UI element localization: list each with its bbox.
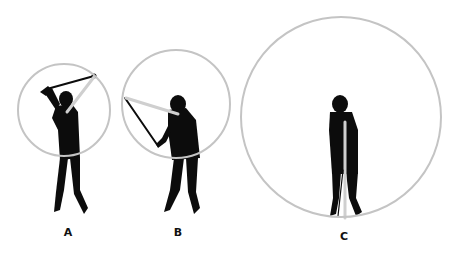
panel-label-a: A (64, 226, 73, 239)
panel-a (18, 64, 110, 214)
swing-arc-diagram (0, 0, 459, 255)
golfer-a-silhouette (40, 86, 88, 214)
panel-c (241, 17, 441, 218)
panel-label-c: C (340, 230, 348, 243)
panel-b (122, 50, 230, 214)
panel-label-b: B (174, 226, 182, 239)
